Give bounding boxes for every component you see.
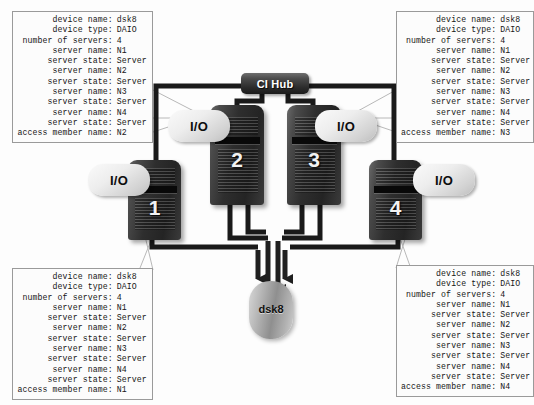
info-rows-bottom-left: device name:dsk8device type:DAIOnumber o…: [17, 272, 147, 396]
info-row-value: N1: [500, 300, 530, 310]
info-row-value: 4: [500, 36, 530, 46]
info-row: server state:Server: [401, 56, 530, 66]
info-row: server name:N4: [401, 108, 530, 118]
info-row-value: Server: [500, 77, 530, 87]
info-row: device name:dsk8: [401, 269, 530, 279]
info-row-value: Server: [117, 77, 147, 87]
info-row: device name:dsk8: [401, 15, 530, 25]
info-row-label: server state:: [17, 313, 117, 323]
info-row: server name:N1: [401, 300, 530, 310]
info-row: server name:N4: [17, 108, 147, 118]
info-row-value: N1: [117, 46, 147, 56]
info-row-value: N4: [500, 362, 530, 372]
info-row: server name:N2: [17, 66, 147, 76]
info-row-value: dsk8: [117, 272, 147, 282]
info-row-label: server state:: [17, 56, 117, 66]
info-row-value: Server: [500, 97, 530, 107]
info-row-value: 4: [500, 290, 530, 300]
info-row-value: Server: [117, 118, 147, 128]
info-row-label: server name:: [17, 87, 117, 97]
info-row-label: server state:: [401, 97, 500, 107]
info-row-value: Server: [117, 375, 147, 385]
info-row-value: N2: [500, 320, 530, 330]
info-row-value: DAIO: [500, 25, 530, 35]
info-row-label: server state:: [17, 354, 117, 364]
io-badge-label-2: I/O: [190, 119, 208, 134]
info-row: access member name:N3: [401, 128, 530, 138]
info-table-top-right: device name:dsk8device type:DAIOnumber o…: [401, 15, 530, 139]
info-row: server state:Server: [17, 313, 147, 323]
info-row-value: N2: [117, 66, 147, 76]
info-row: device type:DAIO: [401, 279, 530, 289]
info-panel-bottom-right: device name:dsk8device type:DAIOnumber o…: [396, 265, 534, 397]
info-row: number of servers:4: [17, 293, 147, 303]
info-row: server state:Server: [17, 118, 147, 128]
info-row-label: device name:: [401, 269, 500, 279]
info-row-value: DAIO: [117, 282, 147, 292]
server-vents-top-4: [376, 168, 415, 184]
info-row-label: server name:: [17, 323, 117, 333]
io-badge-label-3: I/O: [337, 119, 355, 134]
info-row: server state:Server: [17, 97, 147, 107]
info-row-label: server state:: [401, 310, 500, 320]
info-row: server name:N2: [401, 66, 530, 76]
info-panel-bottom-left: device name:dsk8device type:DAIOnumber o…: [12, 268, 153, 400]
info-row-label: device type:: [17, 282, 117, 292]
info-row-value: N1: [117, 385, 147, 395]
info-table-bottom-left: device name:dsk8device type:DAIOnumber o…: [17, 272, 147, 396]
info-row-label: server name:: [401, 362, 500, 372]
info-row-label: server state:: [17, 375, 117, 385]
info-row-label: number of servers:: [17, 36, 117, 46]
info-row: access member name:N2: [17, 128, 147, 138]
info-row: device type:DAIO: [401, 25, 530, 35]
info-row-label: server name:: [401, 66, 500, 76]
info-row: access member name:N4: [401, 382, 530, 392]
info-row-value: Server: [500, 118, 530, 128]
info-row: number of servers:4: [401, 36, 530, 46]
info-row: server name:N3: [17, 344, 147, 354]
info-row: server state:Server: [401, 331, 530, 341]
info-row: server name:N3: [401, 341, 530, 351]
server-number-label-4: 4: [369, 196, 422, 220]
info-row-value: Server: [117, 56, 147, 66]
io-badge-server-1[interactable]: I/O: [88, 164, 150, 196]
info-panel-top-left: device name:dsk8device type:DAIOnumber o…: [12, 11, 153, 143]
info-rows-bottom-right: device name:dsk8device type:DAIOnumber o…: [401, 269, 530, 393]
info-row-value: N4: [117, 108, 147, 118]
info-row-label: device name:: [17, 272, 117, 282]
info-row-label: server state:: [401, 77, 500, 87]
info-row-value: Server: [500, 310, 530, 320]
diagram-canvas: CI Hub 1 2 3 4: [0, 0, 534, 405]
info-row: server name:N3: [401, 87, 530, 97]
info-rows-top-right: device name:dsk8device type:DAIOnumber o…: [401, 15, 530, 139]
ci-hub-node[interactable]: CI Hub: [241, 73, 309, 94]
info-row: device type:DAIO: [17, 282, 147, 292]
info-row: server state:Server: [17, 334, 147, 344]
info-row: device type:DAIO: [17, 25, 147, 35]
info-row-label: server name:: [401, 341, 500, 351]
info-row-value: Server: [117, 313, 147, 323]
info-row-label: server name:: [17, 365, 117, 375]
info-row-label: server state:: [401, 118, 500, 128]
info-row-value: N3: [500, 87, 530, 97]
info-row-value: dsk8: [500, 15, 530, 25]
info-row-label: server state:: [17, 334, 117, 344]
info-row-value: Server: [500, 372, 530, 382]
server-number-label-2: 2: [210, 148, 264, 172]
info-row-label: server name:: [17, 46, 117, 56]
info-row-label: server name:: [401, 87, 500, 97]
info-row-value: dsk8: [500, 269, 530, 279]
info-row-label: server name:: [17, 108, 117, 118]
info-row-value: N3: [117, 87, 147, 97]
info-row-label: device name:: [401, 15, 500, 25]
info-row-value: Server: [117, 97, 147, 107]
info-row-label: server state:: [17, 118, 117, 128]
info-row-label: server state:: [401, 351, 500, 361]
info-row-label: server name:: [17, 303, 117, 313]
info-row: server state:Server: [17, 56, 147, 66]
info-row-label: device name:: [17, 15, 117, 25]
io-badge-server-2[interactable]: I/O: [168, 110, 230, 142]
io-badge-server-3[interactable]: I/O: [315, 110, 377, 142]
info-row: server state:Server: [401, 351, 530, 361]
io-badge-server-4[interactable]: I/O: [413, 164, 475, 196]
